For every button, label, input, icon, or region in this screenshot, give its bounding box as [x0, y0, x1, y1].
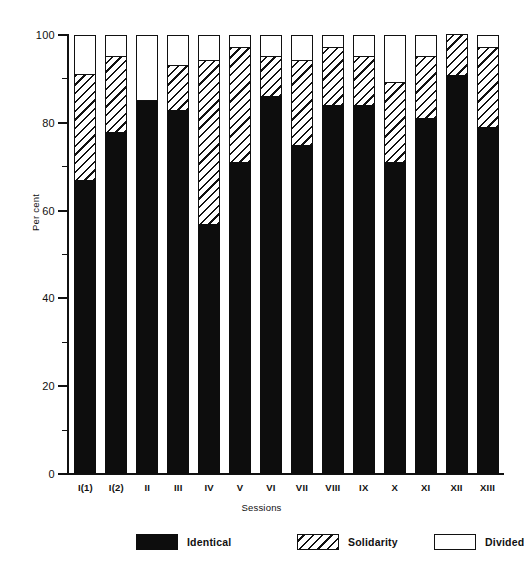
bar-segment-solidarity [105, 57, 127, 132]
bar-segment-solidarity [353, 57, 375, 105]
y-tick-major [58, 34, 67, 36]
x-tick-label: IX [359, 482, 368, 493]
legend-label: Divided [485, 536, 524, 548]
y-axis-title: Per cent [30, 194, 41, 231]
legend-item: Solidarity [297, 534, 398, 550]
bar-segment-identical [260, 96, 282, 474]
bar-segment-solidarity [229, 48, 251, 162]
x-tick-label: XI [421, 482, 430, 493]
bar-segment-divided [74, 35, 96, 75]
y-tick-major [58, 122, 67, 124]
bar-column [136, 35, 158, 474]
legend-swatch-divided [434, 534, 476, 550]
y-tick-label: 20 [42, 380, 55, 392]
x-tick-label: IV [204, 482, 213, 493]
bar-segment-solidarity [415, 57, 437, 118]
bar-segment-solidarity [322, 48, 344, 105]
bar-column [415, 35, 437, 474]
bar-segment-identical [415, 118, 437, 474]
bar-top-cap [446, 34, 468, 35]
x-tick-label: X [391, 482, 398, 493]
bar-column [105, 35, 127, 474]
bar-column [446, 35, 468, 474]
x-tick-label: II [144, 482, 150, 493]
x-tick-label: VII [296, 482, 308, 493]
bar-segment-identical [291, 145, 313, 474]
bar-segment-solidarity [167, 66, 189, 110]
bar-segment-identical [477, 127, 499, 474]
legend-label: Solidarity [348, 536, 398, 548]
x-axis-title: Sessions [0, 502, 523, 513]
x-tick-label: V [237, 482, 244, 493]
y-tick-label: 60 [42, 205, 55, 217]
bar-column [167, 35, 189, 474]
y-tick-label: 0 [49, 468, 55, 480]
y-tick-label: 80 [42, 117, 55, 129]
bar-segment-identical [353, 105, 375, 474]
bar-segment-divided [353, 35, 375, 57]
chart-legend: IdenticalSolidarityDivided [0, 534, 523, 560]
bar-column [260, 35, 282, 474]
y-tick-major [58, 385, 67, 387]
y-tick-major [58, 473, 67, 475]
legend-swatch-solidarity [297, 534, 339, 550]
bar-segment-divided [136, 35, 158, 101]
bar-segment-identical [322, 105, 344, 474]
bar-segment-divided [477, 35, 499, 48]
bar-segment-solidarity [74, 75, 96, 180]
bar-segment-identical [446, 75, 468, 474]
y-tick-label: 40 [42, 292, 55, 304]
y-tick-label: 100 [36, 29, 55, 41]
bar-segment-divided [229, 35, 251, 48]
legend-item: Divided [434, 534, 524, 550]
x-tick-label: VIII [325, 482, 340, 493]
bar-segment-divided [260, 35, 282, 57]
bar-segment-divided [105, 35, 127, 57]
bar-segment-identical [384, 162, 406, 474]
bar-segment-solidarity [260, 57, 282, 97]
bar-segment-solidarity [384, 83, 406, 162]
bar-column [322, 35, 344, 474]
bar-segment-identical [167, 110, 189, 474]
x-tick-label: I(1) [78, 482, 93, 493]
x-tick-label: XIII [480, 482, 495, 493]
x-tick-label: VI [266, 482, 275, 493]
bar-segment-divided [384, 35, 406, 83]
bar-segment-solidarity [291, 61, 313, 144]
bar-column [198, 35, 220, 474]
bar-segment-identical [74, 180, 96, 474]
y-tick-major [58, 210, 67, 212]
bar-segment-identical [136, 101, 158, 474]
x-tick-label: I(2) [109, 482, 124, 493]
bar-segment-divided [415, 35, 437, 57]
x-tick-label: III [174, 482, 183, 493]
bar-segment-solidarity [477, 48, 499, 127]
bar-column [229, 35, 251, 474]
bar-segment-solidarity [198, 61, 220, 223]
y-tick-major [58, 297, 67, 299]
legend-label: Identical [187, 536, 231, 548]
bar-column [477, 35, 499, 474]
bar-column [291, 35, 313, 474]
bar-column [384, 35, 406, 474]
bar-column [353, 35, 375, 474]
bars-layer [67, 35, 504, 474]
bar-column [74, 35, 96, 474]
bar-segment-identical [198, 224, 220, 474]
x-tick-label: XII [450, 482, 462, 493]
bar-segment-solidarity [446, 35, 468, 75]
bar-segment-divided [167, 35, 189, 66]
bar-segment-identical [105, 132, 127, 474]
bar-segment-identical [229, 162, 251, 474]
legend-swatch-identical [136, 534, 178, 550]
bar-segment-divided [198, 35, 220, 61]
legend-item: Identical [136, 534, 231, 550]
bar-segment-divided [322, 35, 344, 48]
bar-segment-divided [291, 35, 313, 61]
